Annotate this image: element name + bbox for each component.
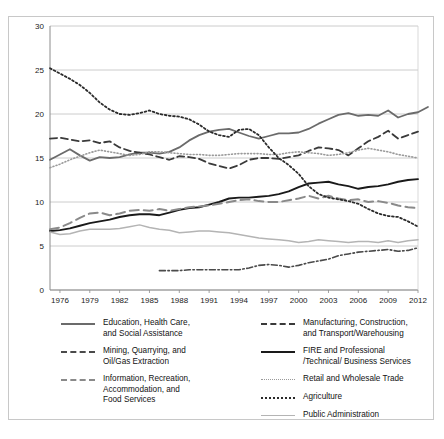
svg-text:1997: 1997 xyxy=(260,296,278,305)
legend-label-line: Agriculture xyxy=(303,392,342,403)
svg-text:2003: 2003 xyxy=(320,296,338,305)
legend-label-line: Public Administration xyxy=(303,410,379,421)
series-line-5 xyxy=(50,225,418,243)
plot-area: 051015202530 197619791982198519881991199… xyxy=(0,0,444,312)
legend-label-line: and Social Assistance xyxy=(103,329,190,340)
legend-label-line: Food Services xyxy=(103,395,190,406)
legend-swatch-retail-icon xyxy=(261,374,295,385)
legend-line-glyph xyxy=(61,351,95,353)
legend-line-glyph xyxy=(61,379,95,381)
legend-label-agriculture: Agriculture xyxy=(303,392,342,403)
legend-swatch-education-icon xyxy=(61,318,95,329)
legend-line-glyph xyxy=(261,415,295,416)
legend-label-manufacturing: Manufacturing, Construction,and Transpor… xyxy=(303,318,408,339)
legend-line-glyph xyxy=(61,323,95,325)
figure-container: Percentage share 051015202530 1976197919… xyxy=(0,0,444,439)
legend-label-line: Manufacturing, Construction, xyxy=(303,318,408,329)
legend-label-education: Education, Health Care,and Social Assist… xyxy=(103,318,190,339)
series-line-0 xyxy=(50,107,428,161)
svg-text:1982: 1982 xyxy=(111,296,129,305)
svg-text:1991: 1991 xyxy=(200,296,218,305)
legend-item-retail[interactable]: Retail and Wholesale Trade xyxy=(261,374,433,385)
legend-label-line: Information, Recreation, xyxy=(103,374,190,385)
legend-label-information: Information, Recreation,Accommodation, a… xyxy=(103,374,190,406)
legend-line-glyph xyxy=(261,397,295,399)
legend-swatch-manufacturing-icon xyxy=(261,318,295,329)
legend-label-line: FIRE and Professional xyxy=(303,346,411,357)
series-line-4 xyxy=(50,196,418,229)
legend-label-line: Mining, Quarrying, and xyxy=(103,346,186,357)
svg-text:2012: 2012 xyxy=(409,296,427,305)
legend-label-line: /Technical/ Business Services xyxy=(303,357,411,368)
svg-text:0: 0 xyxy=(40,286,45,295)
svg-text:1988: 1988 xyxy=(170,296,188,305)
legend-line-glyph xyxy=(261,379,295,380)
legend-label-line: Accommodation, and xyxy=(103,385,190,396)
legend-swatch-information-icon xyxy=(61,374,95,385)
series-line-7 xyxy=(159,248,418,271)
data-series xyxy=(50,68,428,270)
legend-label-line: and Transport/Warehousing xyxy=(303,329,408,340)
legend-label-line: Education, Health Care, xyxy=(103,318,190,329)
legend-label-retail: Retail and Wholesale Trade xyxy=(303,374,404,385)
legend-column-right: Manufacturing, Construction,and Transpor… xyxy=(221,318,433,418)
svg-text:10: 10 xyxy=(35,198,44,207)
legend-label-public: Public Administration xyxy=(303,410,379,421)
series-line-2 xyxy=(50,179,418,231)
legend-item-mining[interactable]: Mining, Quarrying, andOil/Gas Extraction xyxy=(61,346,221,367)
legend-label-fire: FIRE and Professional/Technical/ Busines… xyxy=(303,346,411,367)
svg-text:30: 30 xyxy=(35,22,44,31)
svg-text:20: 20 xyxy=(35,110,44,119)
legend-item-fire[interactable]: FIRE and Professional/Technical/ Busines… xyxy=(261,346,433,367)
legend-line-glyph xyxy=(261,323,295,325)
legend-item-public[interactable]: Public Administration xyxy=(261,410,433,421)
svg-text:1979: 1979 xyxy=(81,296,99,305)
svg-text:2009: 2009 xyxy=(379,296,397,305)
legend-label-line: Retail and Wholesale Trade xyxy=(303,374,404,385)
svg-text:15: 15 xyxy=(35,154,44,163)
y-tick-labels: 051015202530 xyxy=(35,22,44,295)
legend-item-education[interactable]: Education, Health Care,and Social Assist… xyxy=(61,318,221,339)
svg-text:1985: 1985 xyxy=(141,296,159,305)
x-tick-labels: 1976197919821985198819911994199720002003… xyxy=(51,296,427,305)
legend-swatch-agriculture-icon xyxy=(261,392,295,403)
line-chart: 051015202530 197619791982198519881991199… xyxy=(0,0,444,312)
legend-item-agriculture[interactable]: Agriculture xyxy=(261,392,433,403)
svg-text:2006: 2006 xyxy=(349,296,367,305)
legend-swatch-mining-icon xyxy=(61,346,95,357)
svg-text:5: 5 xyxy=(40,242,45,251)
legend-label-mining: Mining, Quarrying, andOil/Gas Extraction xyxy=(103,346,186,367)
legend-column-left: Education, Health Care,and Social Assist… xyxy=(9,318,221,418)
svg-text:1976: 1976 xyxy=(51,296,69,305)
svg-text:2000: 2000 xyxy=(290,296,308,305)
legend-item-manufacturing[interactable]: Manufacturing, Construction,and Transpor… xyxy=(261,318,433,339)
legend-swatch-fire-icon xyxy=(261,346,295,357)
chart-legend: Education, Health Care,and Social Assist… xyxy=(9,318,433,418)
svg-text:1994: 1994 xyxy=(230,296,248,305)
svg-text:25: 25 xyxy=(35,66,44,75)
legend-line-glyph xyxy=(261,351,295,353)
series-line-6 xyxy=(50,68,418,226)
legend-item-information[interactable]: Information, Recreation,Accommodation, a… xyxy=(61,374,221,406)
legend-label-line: Oil/Gas Extraction xyxy=(103,357,186,368)
legend-swatch-public-icon xyxy=(261,410,295,421)
